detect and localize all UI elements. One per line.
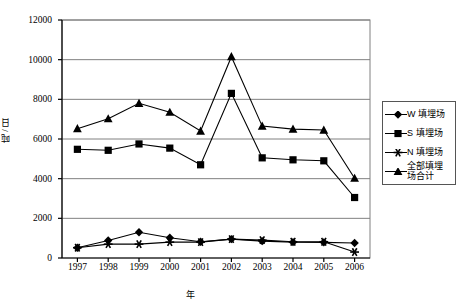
- x-tick-label: 2000: [153, 262, 187, 272]
- data-point: [166, 145, 173, 152]
- legend-item[interactable]: N 填埋场: [385, 143, 453, 162]
- x-tick-label: 2005: [307, 262, 341, 272]
- legend-label: 全部填埋 场合计: [407, 162, 443, 181]
- data-point: [289, 156, 296, 163]
- y-tick-label: 12000: [10, 15, 52, 25]
- data-point: [228, 90, 235, 97]
- legend-marker: [394, 149, 403, 156]
- data-point: [197, 161, 204, 168]
- y-tick-label: 8000: [10, 94, 52, 104]
- y-tick-label: 2000: [10, 213, 52, 223]
- legend-item[interactable]: W 填埋场: [385, 105, 453, 124]
- legend-item[interactable]: 全部填埋 场合计: [385, 162, 453, 181]
- legend-label: S 填埋场: [407, 129, 443, 139]
- data-point: [259, 154, 266, 161]
- legend-marker: [394, 111, 402, 119]
- legend-item[interactable]: S 填埋场: [385, 124, 453, 143]
- legend-marker: [394, 130, 401, 137]
- data-point: [105, 147, 112, 154]
- legend-marker-square-icon: [385, 127, 407, 141]
- legend-marker-triangle-icon: [385, 165, 407, 179]
- x-tick-label: 2006: [338, 262, 372, 272]
- data-point: [74, 146, 81, 153]
- y-tick-label: 4000: [10, 174, 52, 184]
- data-point: [135, 140, 142, 147]
- x-tick-label: 2001: [184, 262, 218, 272]
- legend-marker: [394, 168, 403, 175]
- x-tick-label: 2003: [245, 262, 279, 272]
- y-tick-label: 6000: [10, 134, 52, 144]
- x-tick-label: 1998: [91, 262, 125, 272]
- y-tick-label: 10000: [10, 55, 52, 65]
- legend-marker-star-icon: [385, 146, 407, 160]
- x-tick-label: 1999: [122, 262, 156, 272]
- x-tick-label: 2004: [276, 262, 310, 272]
- data-point: [351, 194, 358, 201]
- x-tick-label: 2002: [214, 262, 248, 272]
- legend-marker-diamond-icon: [385, 108, 407, 122]
- y-tick-label: 0: [10, 253, 52, 263]
- legend-label: N 填埋场: [407, 148, 443, 158]
- x-tick-label: 1997: [60, 262, 94, 272]
- chart-legend: W 填埋场S 填埋场N 填埋场全部填埋 场合计: [382, 101, 456, 185]
- chart-container: 吨 / 日 年 020004000600080001000012000 1997…: [0, 0, 461, 307]
- legend-label: W 填埋场: [407, 110, 445, 120]
- data-point: [320, 157, 327, 164]
